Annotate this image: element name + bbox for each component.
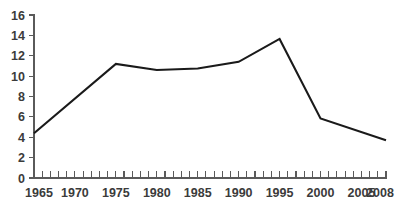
y-tick-label: 16 xyxy=(11,9,25,23)
line-chart: 0246810121416 19651970197519801985199019… xyxy=(0,0,415,204)
y-tick-marks xyxy=(29,15,34,178)
x-tick-label: 2000 xyxy=(307,186,335,200)
plot-area: 0246810121416 19651970197519801985199019… xyxy=(11,9,394,201)
chart-canvas: 0246810121416 19651970197519801985199019… xyxy=(0,0,415,204)
x-tick-marks xyxy=(34,171,386,178)
x-tick-labels: 1965197019751980198519901995200020052008 xyxy=(25,186,394,200)
y-tick-label: 4 xyxy=(18,131,25,145)
x-tick-label: 2008 xyxy=(366,186,394,200)
data-series xyxy=(34,39,386,140)
x-tick-label: 1965 xyxy=(25,186,53,200)
y-tick-label: 0 xyxy=(18,172,25,186)
data-line-series-1 xyxy=(34,39,386,140)
x-tick-label: 1975 xyxy=(102,186,130,200)
y-tick-label: 14 xyxy=(11,29,25,43)
x-tick-label: 1970 xyxy=(61,186,89,200)
y-tick-labels: 0246810121416 xyxy=(11,9,25,186)
x-tick-label: 1990 xyxy=(225,186,253,200)
x-tick-label: 1995 xyxy=(266,186,294,200)
x-tick-label: 1985 xyxy=(184,186,212,200)
y-tick-label: 8 xyxy=(18,90,25,104)
y-tick-label: 6 xyxy=(18,110,25,124)
y-tick-label: 2 xyxy=(18,151,25,165)
x-tick-label: 1980 xyxy=(143,186,171,200)
y-tick-label: 10 xyxy=(11,70,25,84)
y-tick-label: 12 xyxy=(11,49,25,63)
